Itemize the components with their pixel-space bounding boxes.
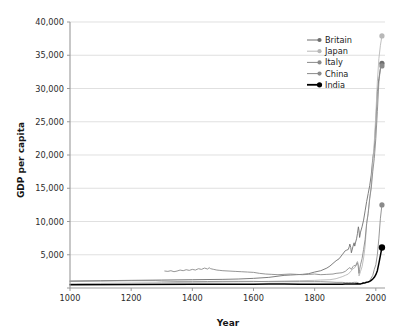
legend-marker-japan [317, 49, 321, 53]
x-tick-label-1200: 1200 [121, 293, 142, 303]
x-tick-label-1800: 1800 [304, 293, 325, 303]
legend-label-india: India [325, 80, 345, 90]
x-tick-label-1400: 1400 [182, 293, 203, 303]
legend-label-britain: Britain [325, 35, 352, 45]
gdp-per-capita-line-chart: 5,00010,00015,00020,00025,00030,00035,00… [0, 0, 410, 333]
legend-label-japan: Japan [324, 46, 348, 56]
x-tick-label-1600: 1600 [243, 293, 264, 303]
legend-label-italy: Italy [325, 57, 343, 67]
y-axis-title: GDP per capita [16, 122, 26, 198]
x-axis-title: Year [216, 318, 240, 328]
y-tick-label-40000: 40,000 [35, 17, 64, 27]
y-tick-label-15000: 15,000 [35, 183, 64, 193]
series-endpoint-japan [379, 33, 384, 38]
legend-marker-britain [317, 38, 321, 42]
y-tick-label-20000: 20,000 [35, 150, 64, 160]
y-tick-label-10000: 10,000 [35, 217, 64, 227]
series-endpoint-italy [379, 63, 384, 68]
legend-marker-india [317, 82, 322, 87]
series-endpoint-india [379, 244, 385, 250]
y-tick-label-25000: 25,000 [35, 117, 64, 127]
x-tick-label-1000: 1000 [60, 293, 81, 303]
series-endpoint-china [379, 202, 384, 207]
legend-marker-china [317, 72, 321, 76]
legend-marker-italy [317, 60, 321, 64]
legend-label-china: China [325, 69, 348, 79]
x-tick-label-2000: 2000 [365, 293, 386, 303]
y-tick-label-5000: 5,000 [41, 250, 64, 260]
y-tick-label-35000: 35,000 [35, 50, 64, 60]
chart-container: 5,00010,00015,00020,00025,00030,00035,00… [0, 0, 410, 333]
y-tick-label-30000: 30,000 [35, 84, 64, 94]
